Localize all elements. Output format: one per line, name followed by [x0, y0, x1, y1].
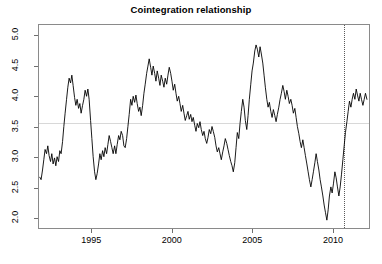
x-axis-tick: [91, 229, 92, 233]
x-axis-tick: [252, 229, 253, 233]
plot-area: [38, 24, 370, 229]
y-axis-tick-label: 3.5: [0, 121, 30, 131]
cointegration-series-line: [39, 25, 369, 228]
y-axis-tick-label: 5.0: [0, 29, 30, 39]
page-title: Cointegration relationship: [0, 4, 382, 15]
x-axis-tick-label: 2005: [232, 235, 272, 245]
chart-figure: Cointegration relationship 2.02.53.03.54…: [0, 0, 382, 264]
x-axis-tick: [333, 229, 334, 233]
x-axis-tick-label: 2010: [313, 235, 353, 245]
y-axis-tick-label: 3.0: [0, 151, 30, 161]
x-axis-tick-label: 1995: [71, 235, 111, 245]
y-axis-tick-label: 2.5: [0, 182, 30, 192]
x-axis-tick-label: 2000: [152, 235, 192, 245]
y-axis-tick-label: 4.0: [0, 90, 30, 100]
y-axis-tick-label: 2.0: [0, 212, 30, 222]
x-axis-tick: [172, 229, 173, 233]
y-axis-tick-label: 4.5: [0, 60, 30, 70]
